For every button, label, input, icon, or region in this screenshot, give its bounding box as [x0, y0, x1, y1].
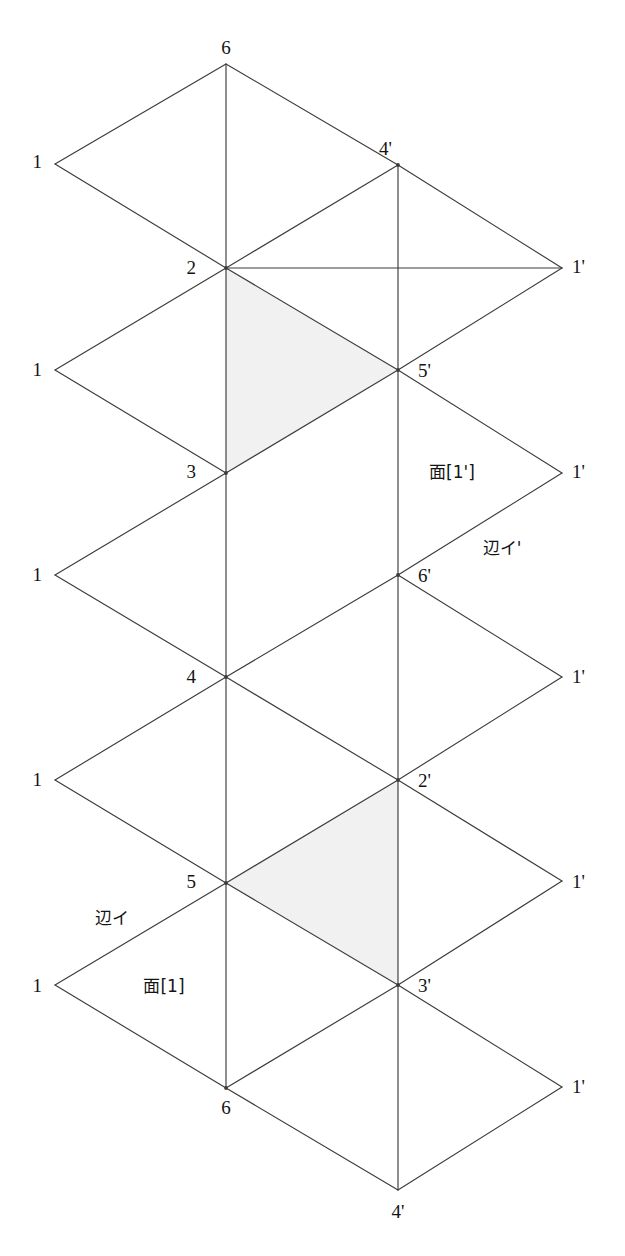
net-edge	[398, 985, 562, 1087]
net-edge	[398, 1087, 562, 1190]
vertex-dot	[396, 368, 400, 372]
vertex-label-v-1p-b: 1'	[572, 462, 585, 481]
vertex-label-v-1-d: 1	[33, 770, 43, 789]
net-edge	[398, 473, 562, 575]
vertex-dot	[396, 778, 400, 782]
net-edge	[226, 985, 398, 1088]
net-edge	[226, 1088, 398, 1190]
vertex-dot	[396, 983, 400, 987]
vertex-label-v-6-top: 6	[221, 38, 231, 57]
vertex-label-v-6-bottom: 6	[221, 1098, 231, 1117]
vertex-label-v-1p-c: 1'	[572, 667, 585, 686]
annotation-label-face-1-prime: 面[1']	[429, 464, 475, 481]
vertex-label-v-4: 4	[187, 667, 197, 686]
vertex-label-v-2: 2	[187, 258, 197, 277]
vertex-label-v-1-b: 1	[33, 360, 43, 379]
vertex-label-v-1-a: 1	[33, 152, 43, 171]
net-edge	[398, 780, 562, 881]
net-edge	[226, 64, 398, 165]
annotation-label-edge-i: 辺イ	[95, 910, 129, 927]
vertex-dot	[224, 881, 228, 885]
net-edge	[55, 370, 226, 473]
net-edge	[55, 473, 226, 575]
net-edge	[226, 575, 398, 677]
vertex-dot	[224, 1086, 228, 1090]
net-edge	[55, 575, 226, 677]
vertex-label-v-3: 3	[187, 462, 197, 481]
net-edge	[55, 268, 226, 370]
vertex-label-v-4p-bot: 4'	[392, 1202, 405, 1221]
net-edge	[55, 985, 226, 1088]
net-edge	[55, 883, 226, 985]
net-edges-group	[55, 64, 562, 1190]
net-edge	[55, 780, 226, 883]
vertex-dot	[224, 675, 228, 679]
vertex-dot	[224, 471, 228, 475]
diagram-canvas: 614'21'15'31'16'41'12'51'13'61'4' 面[1']辺…	[0, 0, 625, 1256]
vertex-label-v-4p-top: 4'	[379, 139, 392, 158]
annotation-label-edge-i-prime: 辺イ'	[483, 540, 522, 557]
vertex-label-v-3p: 3'	[418, 976, 431, 995]
net-edge	[226, 677, 398, 780]
vertex-label-v-1p-a: 1'	[572, 257, 585, 276]
vertex-label-v-5p: 5'	[418, 361, 431, 380]
net-edge	[398, 575, 562, 677]
vertex-dot	[224, 266, 228, 270]
shaded-region	[226, 780, 398, 985]
net-edge	[398, 268, 562, 370]
net-drawing	[0, 0, 625, 1256]
vertex-label-v-5: 5	[187, 872, 197, 891]
vertex-label-v-1p-e: 1'	[572, 1077, 585, 1096]
net-edge	[226, 165, 398, 268]
net-edge	[55, 164, 226, 268]
vertex-dot	[396, 163, 400, 167]
vertex-label-v-1-e: 1	[33, 976, 43, 995]
vertex-label-v-6p: 6'	[418, 566, 431, 585]
vertex-dot	[396, 573, 400, 577]
net-edge	[55, 64, 226, 164]
vertex-label-v-1p-d: 1'	[572, 872, 585, 891]
vertex-label-v-1-c: 1	[33, 565, 43, 584]
net-edge	[398, 677, 562, 780]
net-edge	[55, 677, 226, 780]
shaded-region	[226, 268, 398, 473]
net-edge	[398, 881, 562, 985]
annotation-label-face-1: 面[1]	[143, 978, 184, 995]
net-edge	[398, 165, 562, 268]
net-edge	[398, 370, 562, 473]
vertex-label-v-2p: 2'	[418, 771, 431, 790]
